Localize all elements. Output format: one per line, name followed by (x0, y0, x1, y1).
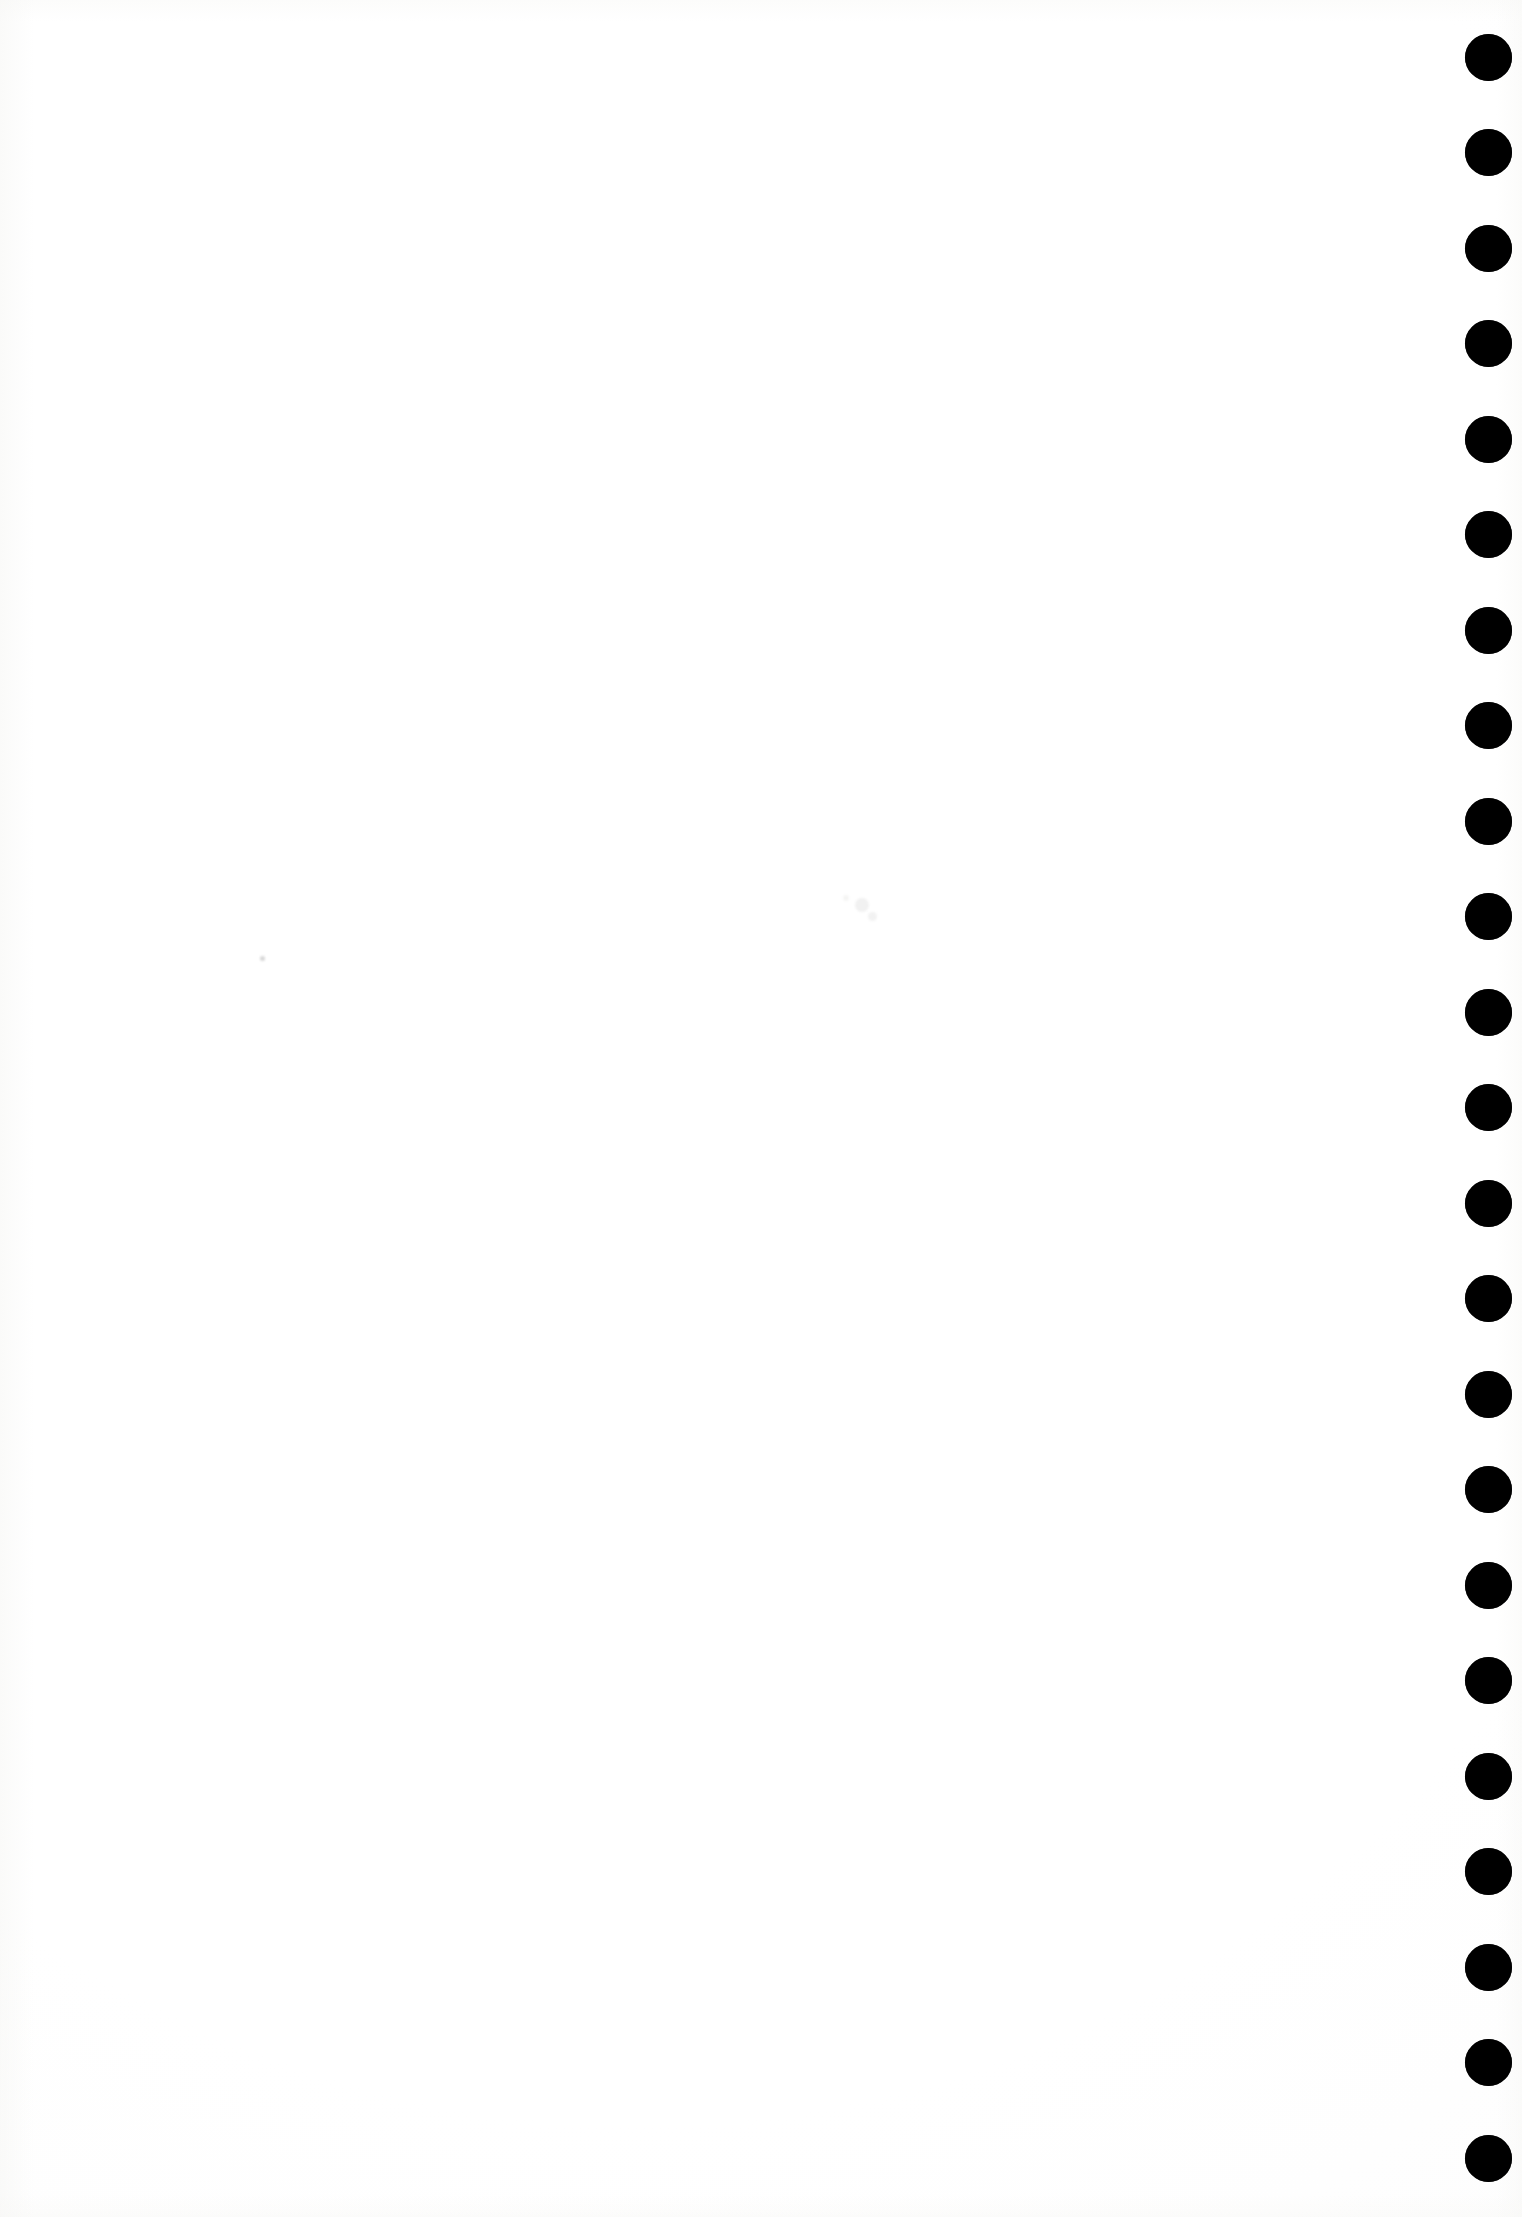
registration-dot (1465, 1275, 1512, 1322)
registration-dot (1465, 2039, 1512, 2086)
registration-dot (1465, 702, 1512, 749)
registration-dot (1465, 2135, 1512, 2182)
registration-dot (1465, 1753, 1512, 1800)
registration-dot (1465, 1657, 1512, 1704)
registration-dot (1465, 320, 1512, 367)
registration-dot (1465, 989, 1512, 1036)
registration-dot (1465, 1180, 1512, 1227)
registration-dot (1465, 798, 1512, 845)
scanned-page (0, 0, 1522, 2217)
registration-dot (1465, 225, 1512, 272)
registration-dot (1465, 1084, 1512, 1131)
registration-dot (1465, 1466, 1512, 1513)
registration-dot (1465, 34, 1512, 81)
registration-dot (1465, 511, 1512, 558)
registration-dot (1465, 1848, 1512, 1895)
registration-dot (1465, 129, 1512, 176)
registration-dot (1465, 1562, 1512, 1609)
registration-dot (1465, 1944, 1512, 1991)
page-content-text (59, 59, 60, 60)
registration-dot (1465, 607, 1512, 654)
page-content-area (60, 60, 1390, 2160)
registration-dot (1465, 416, 1512, 463)
registration-dot (1465, 1371, 1512, 1418)
registration-dot (1465, 893, 1512, 940)
